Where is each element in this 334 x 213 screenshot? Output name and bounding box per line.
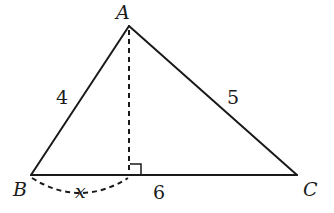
side-ac xyxy=(129,26,297,175)
side-ab xyxy=(31,26,129,175)
side-ab-length: 4 xyxy=(56,86,68,108)
side-ac-length: 5 xyxy=(227,86,239,108)
vertex-label-c: C xyxy=(303,178,318,200)
vertex-label-b: B xyxy=(12,178,27,200)
triangle-diagram: A B C 4 5 6 x xyxy=(0,0,334,213)
side-bc-length: 6 xyxy=(153,181,165,203)
right-angle-marker xyxy=(130,164,141,175)
vertex-label-a: A xyxy=(114,1,130,23)
segment-x-label: x xyxy=(75,180,86,202)
